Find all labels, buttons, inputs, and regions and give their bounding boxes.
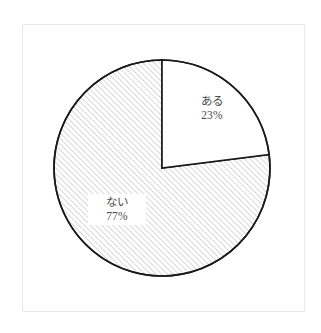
pie-slice-label-nai: ない 77% bbox=[88, 194, 146, 225]
pie-slice-label-nai-name: ない bbox=[91, 196, 143, 210]
pie-slice-label-aru: ある 23% bbox=[186, 95, 238, 122]
pie-chart-figure: ある 23% ない 77% bbox=[0, 0, 321, 333]
pie-slice-label-nai-value: 77% bbox=[91, 210, 143, 224]
pie-slice-label-aru-value: 23% bbox=[186, 109, 238, 123]
pie-chart-canvas bbox=[0, 0, 321, 333]
pie-slice-label-aru-name: ある bbox=[186, 95, 238, 109]
